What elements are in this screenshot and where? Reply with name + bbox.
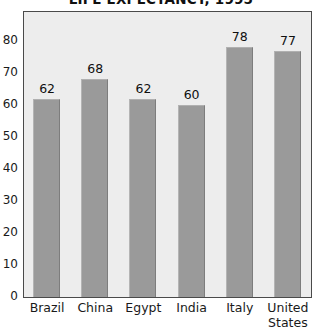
chart-title: LIFE EXPECTANCY, 1995 [0, 0, 322, 7]
x-tick-label: Italy [226, 300, 253, 315]
bar-value-label: 62 [39, 81, 55, 96]
y-tick-label: 20 [3, 225, 18, 239]
bar-value-label: 77 [280, 33, 296, 48]
x-tick-label: Egypt [125, 300, 161, 315]
bar [226, 47, 253, 297]
bar-chart: LIFE EXPECTANCY, 1995 80706050403020100 … [0, 0, 322, 331]
bar-value-label: 60 [184, 87, 200, 102]
y-tick-label: 10 [3, 257, 18, 271]
y-tick-label: 80 [3, 33, 18, 47]
plot-area [23, 11, 312, 298]
bar-value-label: 62 [135, 81, 151, 96]
bar [178, 105, 205, 297]
bar [81, 79, 108, 297]
x-tick-label: UnitedStates [267, 300, 308, 330]
bar [129, 99, 156, 297]
bar-value-label: 78 [232, 29, 248, 44]
bar [33, 99, 60, 297]
bar-value-label: 68 [87, 61, 103, 76]
y-tick-label: 30 [3, 193, 18, 207]
bar [274, 51, 301, 297]
y-tick-label: 70 [3, 65, 18, 79]
y-tick-label: 60 [3, 97, 18, 111]
y-tick-label: 0 [10, 289, 18, 303]
x-tick-label: China [77, 300, 113, 315]
x-axis: BrazilChinaEgyptIndiaItalyUnitedStates [23, 300, 312, 331]
y-tick-label: 50 [3, 129, 18, 143]
y-tick-label: 40 [3, 161, 18, 175]
x-tick-label: Brazil [30, 300, 65, 315]
x-tick-label: India [176, 300, 207, 315]
y-axis: 80706050403020100 [0, 0, 23, 331]
